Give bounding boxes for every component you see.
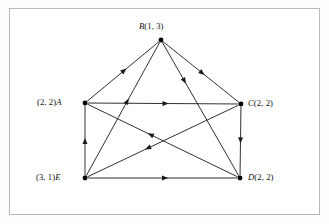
vertex-label-a: (2, 2)A	[37, 98, 62, 107]
arrowhead-b-to-d	[181, 77, 186, 84]
vertex-coord-a: (2, 2)	[37, 97, 56, 107]
vertex-label-d: D(2, 2)	[248, 173, 274, 182]
vertex-coord-b: (1, 3)	[144, 21, 163, 31]
vertex-name-a: A	[56, 97, 61, 107]
arrowhead-e-to-d	[162, 176, 168, 181]
arrowhead-b-to-c	[198, 69, 204, 75]
vertex-node-d	[238, 176, 243, 181]
arrowhead-c-to-e	[145, 145, 152, 150]
vertex-node-e	[83, 176, 88, 181]
edge-layer	[83, 42, 244, 181]
vertex-coord-d: (2, 2)	[254, 172, 273, 182]
graph-canvas	[0, 0, 329, 224]
vertex-name-e: E	[55, 172, 60, 182]
vertex-layer	[83, 38, 244, 181]
vertex-node-b	[159, 38, 164, 43]
vertex-node-a	[83, 101, 88, 106]
vertex-label-b: B(1, 3)	[139, 22, 164, 31]
vertex-coord-c: (2, 2)	[254, 98, 273, 108]
vertex-node-c	[239, 102, 244, 107]
arrowhead-c-to-d	[238, 137, 243, 143]
vertex-label-c: C(2, 2)	[248, 99, 273, 108]
arrowhead-a-to-c	[163, 101, 169, 106]
edge-b-to-d	[162, 42, 238, 175]
figure-root: B(1, 3) (2, 2)A C(2, 2) (3, 1)E D(2, 2)	[0, 0, 329, 224]
arrowhead-d-to-a	[148, 133, 155, 138]
vertex-coord-e: (3, 1)	[36, 172, 55, 182]
arrowhead-e-to-b	[124, 98, 129, 105]
vertex-label-e: (3, 1)E	[36, 173, 61, 182]
arrowhead-e-to-a	[83, 138, 88, 144]
